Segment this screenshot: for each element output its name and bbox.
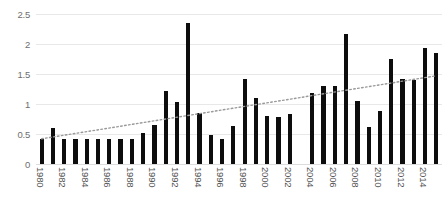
x-tick-label: 2012 <box>396 167 407 187</box>
x-tick-label: 1998 <box>238 167 249 187</box>
x-tick-label: 1990 <box>147 167 158 187</box>
x-tick-label: 1982 <box>57 167 68 187</box>
x-tick-label: 1992 <box>170 167 181 187</box>
x-tick-label: 1994 <box>193 167 204 187</box>
x-tick-label: 1986 <box>102 167 113 187</box>
x-tick-label: 1996 <box>215 167 226 187</box>
x-tick-label: 2008 <box>350 167 361 187</box>
y-tick-label: 0.5 <box>17 129 30 140</box>
x-tick-label: 2000 <box>260 167 271 187</box>
y-tick-label: 0 <box>25 159 30 170</box>
y-tick-label: 2 <box>25 39 30 50</box>
plot-area <box>36 0 442 165</box>
y-tick-label: 2.5 <box>17 9 30 20</box>
x-tick-label: 1984 <box>80 167 91 187</box>
x-axis: 1980198219841986198819901992199419961998… <box>36 165 442 224</box>
x-tick-label: 2014 <box>418 167 429 187</box>
x-tick-label: 2010 <box>373 167 384 187</box>
x-tick-label: 2002 <box>283 167 294 187</box>
x-tick-label: 2006 <box>328 167 339 187</box>
y-tick-label: 1.5 <box>17 69 30 80</box>
x-tick-label: 2004 <box>305 167 316 187</box>
x-tick-label: 1980 <box>35 167 46 187</box>
trendline <box>36 0 442 165</box>
y-tick-label: 1 <box>25 99 30 110</box>
x-tick-label: 1988 <box>125 167 136 187</box>
trendline-path <box>42 76 437 139</box>
y-axis: 00.511.522.5 <box>0 0 34 224</box>
bar-chart: 00.511.522.5 198019821984198619881990199… <box>0 0 442 224</box>
